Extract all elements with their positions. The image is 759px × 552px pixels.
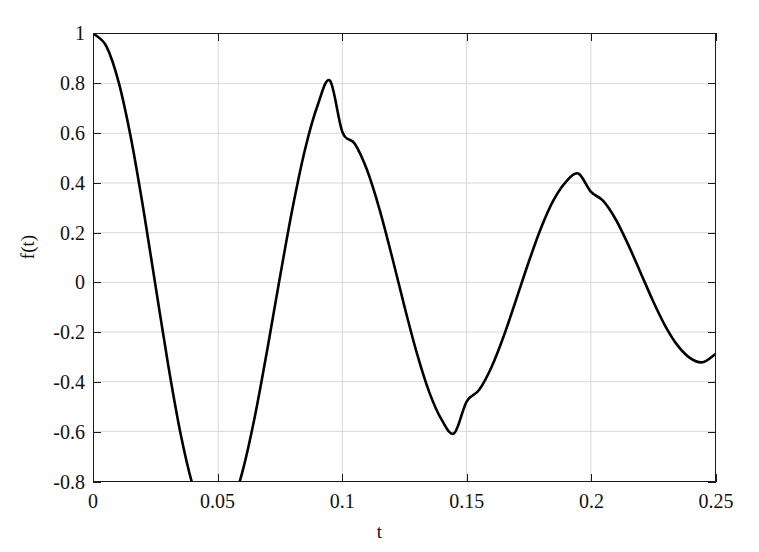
y-tick-label: 0.6 [60,123,85,143]
x-tick-mark [342,33,343,41]
y-tick-label: 0 [75,272,85,292]
x-tick-label: 0 [88,491,98,511]
y-tick-mark [93,282,101,283]
x-tick-mark [93,474,94,482]
y-axis-title: f(t) [17,235,39,259]
y-tick-mark [708,432,716,433]
y-tick-mark [93,432,101,433]
x-tick-label: 0.1 [330,491,355,511]
x-tick-mark [467,474,468,482]
x-tick-mark [218,474,219,482]
x-tick-mark [467,33,468,41]
x-tick-mark [716,33,717,41]
x-tick-mark [591,474,592,482]
y-tick-label: 0.4 [60,173,85,193]
y-tick-mark [93,83,101,84]
y-tick-label: -0.2 [53,322,85,342]
y-tick-mark [93,133,101,134]
y-tick-mark [708,33,716,34]
y-tick-mark [93,233,101,234]
y-tick-label: -0.6 [53,422,85,442]
x-tick-label: 0.2 [579,491,604,511]
x-tick-mark [93,33,94,41]
y-tick-mark [708,482,716,483]
y-tick-mark [708,233,716,234]
y-tick-mark [708,183,716,184]
y-tick-mark [708,332,716,333]
y-tick-mark [708,282,716,283]
y-tick-mark [93,33,101,34]
x-tick-label: 0.05 [200,491,235,511]
x-tick-label: 0.25 [699,491,734,511]
y-tick-label: 0.8 [60,73,85,93]
plot-area [93,33,716,482]
y-tick-mark [708,83,716,84]
x-tick-label: 0.15 [449,491,484,511]
y-tick-mark [708,382,716,383]
x-tick-mark [716,474,717,482]
y-tick-mark [708,133,716,134]
y-tick-label: 1 [75,23,85,43]
figure-canvas: 10.80.60.40.20-0.2-0.4-0.6-0.8 00.050.10… [0,0,759,552]
y-tick-mark [93,332,101,333]
y-tick-label: -0.4 [53,372,85,392]
y-tick-mark [93,482,101,483]
x-axis-title: t [0,521,759,543]
y-tick-label: 0.2 [60,223,85,243]
y-tick-label: -0.8 [53,472,85,492]
y-tick-mark [93,183,101,184]
x-tick-mark [591,33,592,41]
x-tick-mark [218,33,219,41]
x-tick-mark [342,474,343,482]
y-tick-mark [93,382,101,383]
data-curve [94,34,715,481]
